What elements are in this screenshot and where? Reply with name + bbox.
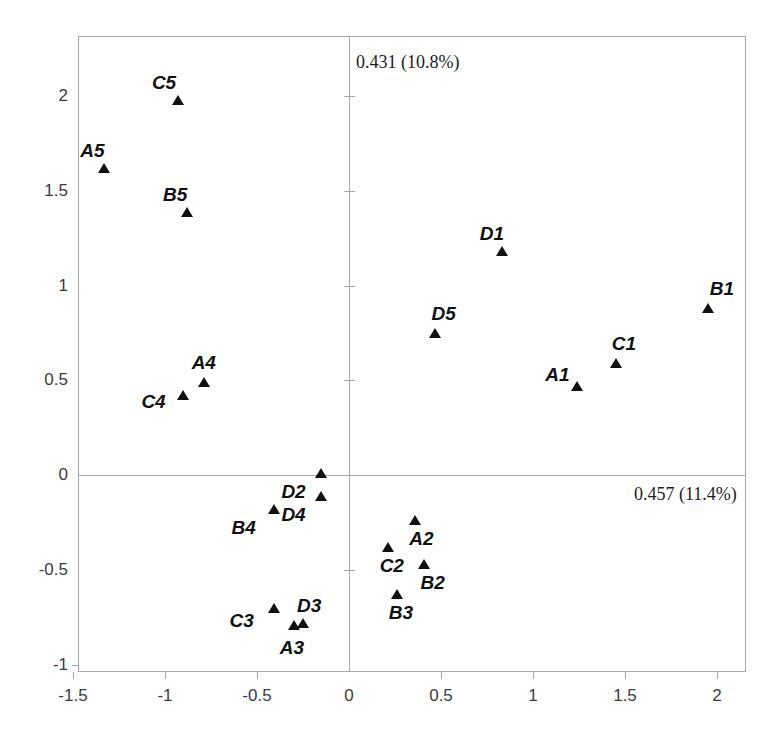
y-axis-caption: 0.431 (10.8%) [356,52,459,73]
plot-frame [78,36,746,672]
x-tick-label: -1.5 [58,686,87,706]
y-tick-label: -0.5 [39,560,68,580]
y-tick-label: 0 [59,465,68,485]
x-tick-label: -1 [157,686,172,706]
data-point-marker [268,603,280,613]
data-point-marker [181,207,193,217]
x-tick [73,672,74,679]
data-point-label: D1 [480,223,504,245]
data-point-marker [496,246,508,256]
x-tick-label: 0.5 [429,686,453,706]
data-point-marker [418,559,430,569]
data-point-label: B1 [710,278,734,300]
y-tick [72,665,79,666]
vertical-zero-axis [349,36,350,672]
y-tick [344,570,355,571]
data-point-marker [288,620,300,630]
data-point-label: D5 [431,303,455,325]
data-point-label: C5 [152,72,176,94]
data-point-marker [98,163,110,173]
data-point-label: B5 [163,184,187,206]
data-point-label: B4 [232,517,256,539]
data-point-label: B2 [420,572,444,594]
x-tick-label: 0 [344,686,353,706]
y-tick-label: 0.5 [44,370,68,390]
data-point-marker [429,328,441,338]
x-tick [717,672,718,679]
data-point-label: D3 [297,595,321,617]
x-tick [533,672,534,679]
y-tick-label: 1.5 [44,181,68,201]
scatter-plot: 21.510.50-0.5-1-1.5-1-0.500.511.52 0.431… [0,0,783,734]
data-point-label: A3 [280,637,304,659]
data-point-label: B3 [389,602,413,624]
data-point-marker [315,491,327,501]
data-point-marker [172,95,184,105]
data-point-label: A2 [409,528,433,550]
data-point-marker [198,377,210,387]
x-axis-caption: 0.457 (11.4%) [634,484,737,505]
data-point-label: A5 [80,140,104,162]
data-point-marker [391,589,403,599]
horizontal-zero-axis [78,475,746,476]
data-point-label: C1 [612,333,636,355]
y-tick [344,380,355,381]
x-tick [257,672,258,679]
data-point-marker [382,542,394,552]
data-point-marker [177,390,189,400]
x-tick [349,470,350,481]
x-tick-label: 1.5 [613,686,637,706]
data-point-marker [702,303,714,313]
data-point-marker [268,504,280,514]
y-tick [344,191,355,192]
data-point-label: C3 [230,610,254,632]
x-tick [625,672,626,679]
y-tick-label: 2 [59,86,68,106]
data-point-marker [409,515,421,525]
y-tick [344,286,355,287]
data-point-marker [610,358,622,368]
data-point-label: D4 [281,504,305,526]
data-point-label: A4 [192,352,216,374]
data-point-label: C2 [380,555,404,577]
data-point-marker [571,381,583,391]
x-tick-label: -0.5 [242,686,271,706]
y-tick-label: -1 [53,655,68,675]
y-tick-label: 1 [59,276,68,296]
x-tick [441,672,442,679]
data-point-marker [315,468,327,478]
x-tick-label: 2 [712,686,721,706]
data-point-label: D2 [281,481,305,503]
data-point-label: A1 [545,364,569,386]
y-tick [344,96,355,97]
x-tick [165,672,166,679]
data-point-label: C4 [141,391,165,413]
x-tick-label: 1 [528,686,537,706]
